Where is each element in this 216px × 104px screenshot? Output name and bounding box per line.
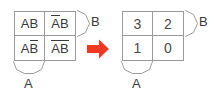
kmap-cell-1-0: AB — [15, 36, 45, 60]
index-value: 3 — [134, 17, 142, 31]
term-segment-negated: A — [51, 17, 60, 30]
table-row: 3 2 — [123, 12, 183, 36]
kmap-grid: 3 2 1 0 — [122, 11, 184, 61]
kmap-grid: AB AB AB AB — [14, 11, 76, 61]
b-axis-label: B — [91, 15, 100, 28]
index-value: 2 — [164, 17, 172, 31]
term-segment: B — [30, 17, 39, 30]
index-number-kmap: 3 2 1 0 B A — [108, 0, 216, 104]
b-axis-bracket-icon — [185, 10, 198, 37]
a-axis-bracket-icon — [121, 61, 153, 74]
kmap-cell-1-0: 1 — [123, 36, 153, 60]
term-segment-negated: B — [30, 42, 39, 55]
kmap-cell-0-1: AB — [45, 12, 75, 35]
b-axis-bracket-icon — [77, 10, 90, 37]
table-row: AB AB — [15, 12, 75, 36]
index-value: 1 — [134, 41, 142, 55]
term-segment: A — [21, 17, 30, 30]
figure-canvas: AB AB AB AB — [0, 0, 216, 104]
b-axis-label: B — [199, 15, 208, 28]
kmap-cell-0-1: 2 — [153, 12, 183, 35]
kmap-cell-0-0: AB — [15, 12, 45, 35]
a-axis-bracket-icon — [13, 61, 45, 74]
transform-arrow-icon — [86, 38, 110, 60]
kmap-cell-1-1: 0 — [153, 36, 183, 60]
table-row: AB AB — [15, 36, 75, 60]
kmap-cell-1-1: AB — [45, 36, 75, 60]
index-value: 0 — [164, 41, 172, 55]
term-segment: B — [60, 17, 69, 30]
term-segment-negated: AB — [51, 42, 68, 55]
table-row: 1 0 — [123, 36, 183, 60]
a-axis-label: A — [24, 77, 33, 90]
term-segment: A — [21, 42, 30, 55]
kmap-cell-0-0: 3 — [123, 12, 153, 35]
a-axis-label: A — [132, 77, 141, 90]
